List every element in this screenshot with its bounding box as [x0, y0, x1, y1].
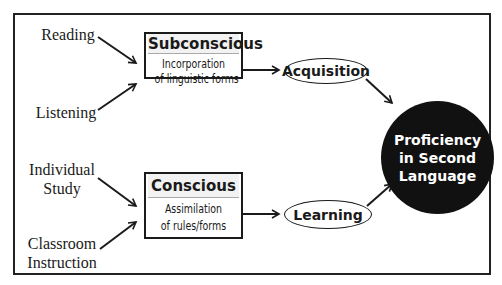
input-listening: Listening [30, 103, 102, 122]
subconscious-line2: of linguistic forms [155, 72, 233, 87]
subconscious-line1: Incorporation [155, 54, 233, 72]
conscious-title: Conscious [148, 174, 239, 198]
learning-ellipse: Learning [284, 200, 372, 229]
input-individual-study-line2: Study [18, 179, 106, 198]
arrow-reading-to-subconscious [98, 37, 136, 63]
conscious-line2: of rules/forms [155, 217, 233, 234]
subconscious-title: Subconscious [148, 34, 239, 54]
subconscious-box: Subconscious Incorporation of linguistic… [144, 32, 243, 79]
proficiency-circle: Proficiency in Second Language [381, 101, 494, 214]
arrow-listening-to-subconscious [98, 84, 136, 110]
proficiency-line3: Language [399, 167, 476, 185]
input-reading: Reading [33, 25, 103, 44]
conscious-box: Conscious Assimilation of rules/forms [144, 172, 243, 239]
proficiency-line2: in Second [399, 149, 476, 167]
input-classroom-instruction-line2: Instruction [18, 253, 106, 272]
acquisition-ellipse: Acquisition [284, 58, 368, 84]
conscious-line1: Assimilation [155, 198, 233, 217]
proficiency-line1: Proficiency [394, 131, 481, 149]
input-classroom-instruction-line1: Classroom [18, 234, 106, 253]
input-individual-study-line1: Individual [18, 160, 106, 179]
input-individual-study: Individual Study [18, 160, 106, 198]
arrow-learning-to-proficiency [367, 184, 392, 206]
arrow-acquisition-to-proficiency [366, 79, 392, 103]
input-classroom-instruction: Classroom Instruction [18, 234, 106, 272]
